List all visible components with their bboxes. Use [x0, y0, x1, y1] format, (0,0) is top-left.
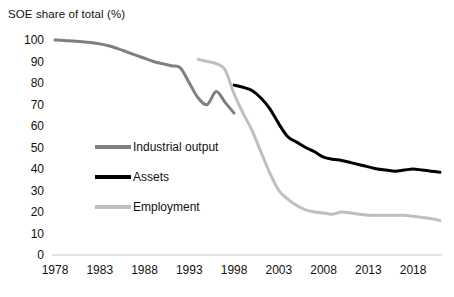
chart-svg	[0, 0, 454, 297]
y-tick-label: 100	[10, 33, 44, 47]
plot-area	[0, 0, 454, 297]
x-tick-label: 2018	[390, 263, 436, 277]
series-line-employment	[198, 59, 440, 220]
legend-swatch-icon	[95, 205, 131, 208]
legend-swatch-icon	[95, 175, 131, 178]
legend-label: Industrial output	[132, 140, 218, 154]
y-tick-label: 0	[10, 248, 44, 262]
y-tick-label: 50	[10, 141, 44, 155]
data-series-group	[55, 40, 440, 221]
y-tick-label: 20	[10, 205, 44, 219]
x-tick-label: 1993	[166, 263, 212, 277]
x-tick-label: 1998	[211, 263, 257, 277]
legend-item-assets[interactable]: Assets	[95, 170, 169, 184]
legend-item-industrial-output[interactable]: Industrial output	[95, 140, 218, 154]
y-tick-label: 70	[10, 98, 44, 112]
x-tick-label: 1988	[122, 263, 168, 277]
x-tick-label: 1983	[77, 263, 123, 277]
x-tick-label: 2013	[345, 263, 391, 277]
legend-label: Assets	[132, 170, 169, 184]
y-tick-label: 60	[10, 119, 44, 133]
series-line-industrial-output	[55, 40, 234, 113]
y-tick-label: 40	[10, 162, 44, 176]
y-tick-label: 90	[10, 55, 44, 69]
x-tick-label: 2008	[301, 263, 347, 277]
y-tick-label: 10	[10, 227, 44, 241]
legend-label: Employment	[132, 200, 200, 214]
y-tick-label: 80	[10, 76, 44, 90]
x-tick-label: 1978	[32, 263, 78, 277]
x-tick-label: 2003	[256, 263, 302, 277]
y-tick-label: 30	[10, 184, 44, 198]
chart-container: SOE share of total (%) 10090807060504030…	[0, 0, 454, 297]
legend-item-employment[interactable]: Employment	[95, 200, 200, 214]
legend-swatch-icon	[95, 145, 131, 148]
